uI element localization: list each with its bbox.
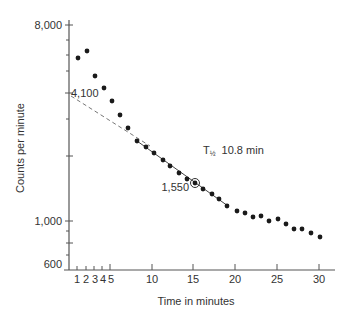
data-point bbox=[126, 126, 131, 131]
x-label-30: 30 bbox=[313, 273, 325, 285]
x-label-4: 4 bbox=[100, 273, 106, 285]
x-label-2: 2 bbox=[83, 273, 89, 285]
data-point bbox=[168, 164, 173, 169]
x-label-15: 15 bbox=[187, 273, 199, 285]
half-life-value: 10.8 min bbox=[222, 144, 264, 156]
extrapolation-line bbox=[71, 96, 150, 146]
data-point bbox=[177, 171, 182, 176]
data-point bbox=[267, 219, 272, 224]
half-life-label: T½10.8 min bbox=[203, 144, 264, 157]
data-point bbox=[118, 113, 123, 118]
x-label-20: 20 bbox=[229, 273, 241, 285]
data-point bbox=[152, 151, 157, 156]
data-point bbox=[85, 49, 90, 54]
data-point bbox=[161, 158, 166, 163]
data-point bbox=[93, 74, 98, 79]
data-point bbox=[76, 56, 81, 61]
intercept-label-4100: 4,100 bbox=[71, 87, 99, 99]
data-point bbox=[110, 99, 115, 104]
data-point bbox=[243, 211, 248, 216]
data-point bbox=[235, 209, 240, 214]
y-label-1000: 1,000 bbox=[34, 215, 62, 227]
x-label-10: 10 bbox=[146, 273, 158, 285]
data-point bbox=[292, 227, 297, 232]
y-axis-title: Counts per minute bbox=[14, 103, 26, 193]
data-point bbox=[309, 231, 314, 236]
y-label-8000: 8,000 bbox=[34, 19, 62, 31]
data-point bbox=[217, 197, 222, 202]
data-point bbox=[225, 204, 230, 209]
y-label-600: 600 bbox=[44, 258, 62, 270]
data-point bbox=[135, 139, 140, 144]
data-point bbox=[300, 227, 305, 232]
x-ticks bbox=[77, 264, 319, 270]
half-life-chart: 8,000 1,000 600 4,100 1 2 3 4 5 10 15 20… bbox=[0, 0, 352, 317]
data-point bbox=[259, 214, 264, 219]
circled-value-label: 1,550 bbox=[161, 181, 189, 193]
data-point bbox=[144, 145, 149, 150]
x-label-3: 3 bbox=[92, 273, 98, 285]
data-point bbox=[276, 217, 281, 222]
data-point bbox=[193, 181, 198, 186]
x-label-5: 5 bbox=[108, 273, 114, 285]
x-axis-title: Time in minutes bbox=[157, 295, 235, 307]
data-points bbox=[76, 49, 323, 240]
data-point bbox=[284, 222, 289, 227]
data-point bbox=[210, 192, 215, 197]
data-point bbox=[201, 187, 206, 192]
half-life-subscript: ½ bbox=[210, 150, 216, 157]
data-point bbox=[251, 215, 256, 220]
data-point bbox=[318, 235, 323, 240]
x-label-1: 1 bbox=[74, 273, 80, 285]
data-point bbox=[102, 86, 107, 91]
x-label-25: 25 bbox=[271, 273, 283, 285]
